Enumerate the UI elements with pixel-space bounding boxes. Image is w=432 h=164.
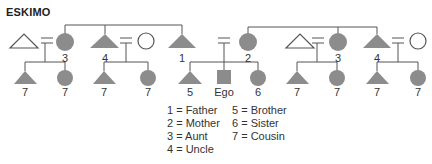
circle-icon (239, 33, 257, 51)
square-icon (217, 70, 231, 84)
triangle-icon (366, 71, 389, 84)
circle-icon (410, 70, 426, 86)
circle-icon (250, 70, 266, 86)
legend-item: 4 = Uncle (167, 143, 220, 156)
label-ego: Ego (214, 86, 234, 98)
triangle-icon (14, 71, 37, 84)
label-uncle-right: 4 (374, 52, 380, 64)
label-sister: 6 (255, 86, 261, 98)
circle-icon (140, 70, 156, 86)
circle-icon (138, 33, 154, 49)
legend-item: 6 = Sister (232, 117, 287, 130)
triangle-icon (93, 71, 116, 84)
children-generation: 7 7 7 7 5 Ego 6 7 7 7 7 (14, 70, 426, 98)
triangle-icon (178, 71, 202, 84)
label-cousin: 7 (145, 86, 151, 98)
circle-icon (410, 33, 426, 49)
label-cousin: 7 (101, 86, 107, 98)
circle-icon (56, 33, 74, 51)
circle-icon (329, 33, 347, 51)
legend-item: 7 = Cousin (232, 130, 287, 143)
triangle-icon (168, 34, 196, 48)
label-cousin: 7 (374, 86, 380, 98)
label-mother: 2 (245, 52, 251, 64)
circle-icon (57, 70, 73, 86)
label-aunt-right: 3 (335, 52, 341, 64)
label-father: 1 (179, 52, 185, 64)
label-aunt-left: 3 (62, 52, 68, 64)
triangle-icon (363, 34, 391, 48)
legend-item: 5 = Brother (232, 104, 287, 117)
triangle-icon (286, 71, 309, 84)
label-uncle-left: 4 (102, 52, 108, 64)
label-brother: 5 (187, 86, 193, 98)
triangle-icon (10, 34, 38, 48)
label-cousin: 7 (62, 86, 68, 98)
triangle-icon (286, 34, 314, 48)
label-cousin: 7 (294, 86, 300, 98)
label-cousin: 7 (334, 86, 340, 98)
legend-item: 3 = Aunt (167, 130, 220, 143)
legend-right-column: 5 = Brother 6 = Sister 7 = Cousin (232, 104, 287, 143)
legend-item: 2 = Mother (167, 117, 220, 130)
legend-left-column: 1 = Father 2 = Mother 3 = Aunt 4 = Uncle (167, 104, 220, 156)
legend-item: 1 = Father (167, 104, 220, 117)
label-cousin: 7 (415, 86, 421, 98)
circle-icon (329, 70, 345, 86)
triangle-icon (90, 34, 119, 48)
label-cousin: 7 (22, 86, 28, 98)
